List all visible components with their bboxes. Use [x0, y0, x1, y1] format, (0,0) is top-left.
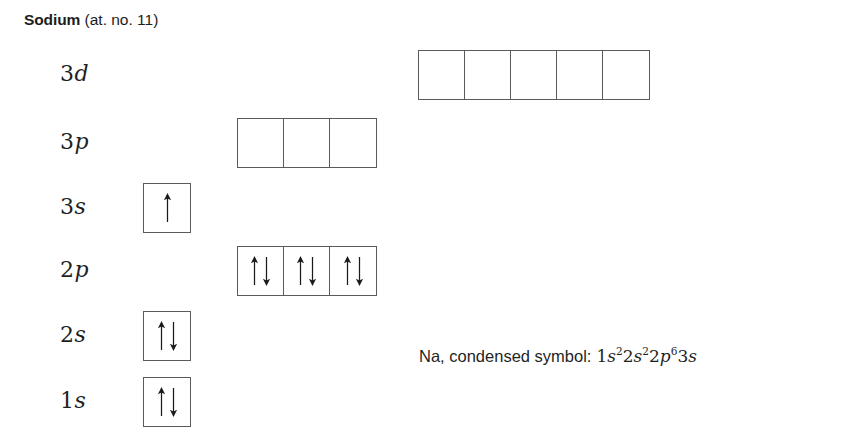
config-shell: 1: [596, 346, 607, 366]
atomic-number-note: (at. no. 11): [85, 11, 159, 28]
spin-up-arrow-icon: [162, 193, 173, 223]
principal-quantum-number: 2: [60, 259, 74, 281]
orbital-label-3s: 3s: [60, 183, 130, 231]
orbital-row-3d: 3d: [0, 50, 856, 98]
config-shell: 2: [623, 346, 634, 366]
subshell-letter: d: [75, 63, 89, 85]
orbital-label-2s: 2s: [60, 311, 130, 359]
electron-spin-pair: [156, 312, 179, 360]
spin-up-arrow-icon: [342, 256, 353, 286]
subshell-letter: p: [75, 131, 89, 153]
orbital-box[interactable]: [144, 184, 190, 232]
orbital-box[interactable]: [284, 119, 330, 167]
orbital-row-3p: 3p: [0, 118, 856, 166]
orbital-box[interactable]: [330, 247, 376, 295]
orbital-box-group-2s: [143, 311, 191, 361]
subshell-letter: p: [75, 259, 89, 281]
spin-down-arrow-icon: [261, 256, 272, 286]
orbital-box[interactable]: [511, 51, 557, 99]
orbital-box[interactable]: [330, 119, 376, 167]
config-electron-count: 2: [642, 345, 649, 357]
orbital-box-group-3p: [237, 118, 377, 168]
orbital-box-group-1s: [143, 377, 191, 427]
orbital-box-group-2p: [237, 246, 377, 296]
config-orbital: s: [688, 346, 697, 366]
config-shell: 2: [649, 346, 660, 366]
orbital-box-group-3d: [418, 50, 650, 100]
orbital-box[interactable]: [238, 247, 284, 295]
principal-quantum-number: 3: [60, 63, 74, 85]
condensed-symbol-label: Na, condensed symbol:: [419, 347, 591, 365]
spin-up-arrow-icon: [295, 256, 306, 286]
orbital-box[interactable]: [419, 51, 465, 99]
spin-down-arrow-icon: [168, 387, 179, 417]
orbital-box[interactable]: [284, 247, 330, 295]
subshell-letter: s: [75, 196, 86, 218]
orbital-box[interactable]: [144, 312, 190, 360]
orbital-row-2p: 2p: [0, 246, 856, 294]
spin-down-arrow-icon: [307, 256, 318, 286]
orbital-label-2p: 2p: [60, 246, 130, 294]
subshell-letter: s: [75, 324, 86, 346]
electron-spin-pair: [342, 247, 365, 295]
spin-up-arrow-icon: [156, 387, 167, 417]
electron-spin-pair: [156, 378, 179, 426]
element-name: Sodium: [24, 11, 80, 28]
spin-up-arrow-icon: [156, 321, 167, 351]
electron-spin-pair: [162, 184, 173, 232]
condensed-symbol: Na, condensed symbol:1s22s22p63s: [419, 348, 697, 365]
orbital-box[interactable]: [557, 51, 603, 99]
orbital-row-1s: 1s: [0, 377, 856, 425]
spin-up-arrow-icon: [249, 256, 260, 286]
principal-quantum-number: 2: [60, 324, 74, 346]
config-shell: 3: [677, 346, 688, 366]
page-title: Sodium (at. no. 11): [24, 12, 158, 28]
orbital-label-3d: 3d: [60, 50, 130, 98]
config-electron-count: 2: [616, 345, 623, 357]
config-orbital: p: [660, 346, 671, 366]
orbital-box-group-3s: [143, 183, 191, 233]
principal-quantum-number: 1: [60, 390, 74, 412]
principal-quantum-number: 3: [60, 196, 74, 218]
electron-configuration: 1s22s22p63s: [596, 346, 697, 366]
principal-quantum-number: 3: [60, 131, 74, 153]
orbital-box[interactable]: [465, 51, 511, 99]
orbital-label-1s: 1s: [60, 377, 130, 425]
electron-spin-pair: [249, 247, 272, 295]
spin-down-arrow-icon: [168, 321, 179, 351]
electron-spin-pair: [295, 247, 318, 295]
config-orbital: s: [634, 346, 643, 366]
orbital-row-3s: 3s: [0, 183, 856, 231]
orbital-box[interactable]: [238, 119, 284, 167]
spin-down-arrow-icon: [354, 256, 365, 286]
orbital-label-3p: 3p: [60, 118, 130, 166]
config-orbital: s: [607, 346, 616, 366]
subshell-letter: s: [75, 390, 86, 412]
orbital-box[interactable]: [603, 51, 649, 99]
orbital-diagram: Sodium (at. no. 11) 3d3p3s2p2s1s Na, con…: [0, 0, 856, 442]
orbital-box[interactable]: [144, 378, 190, 426]
